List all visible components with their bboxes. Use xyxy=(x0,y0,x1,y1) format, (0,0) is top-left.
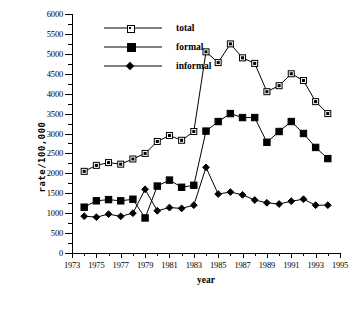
data-point xyxy=(130,196,136,202)
x-tick xyxy=(267,253,268,258)
y-tick-label: 5500 xyxy=(47,29,63,39)
x-axis-title: year xyxy=(197,275,215,285)
x-tick-minor xyxy=(84,253,85,256)
x-tick-minor xyxy=(133,253,134,256)
data-point xyxy=(217,62,219,64)
y-tick xyxy=(65,14,72,15)
data-point xyxy=(251,197,258,204)
data-point xyxy=(191,182,197,188)
data-point xyxy=(288,198,295,205)
data-point xyxy=(130,210,137,217)
y-tick xyxy=(65,193,72,194)
data-point xyxy=(203,128,209,134)
y-tick-label: 500 xyxy=(51,228,63,238)
data-point xyxy=(105,211,112,218)
data-point xyxy=(108,162,110,164)
data-point xyxy=(83,170,85,172)
x-tick-minor xyxy=(230,253,231,256)
x-tick-label: 1983 xyxy=(186,260,202,270)
data-point xyxy=(276,201,283,208)
data-point xyxy=(327,113,329,115)
data-point xyxy=(154,207,161,214)
data-point xyxy=(81,213,88,220)
y-tick-label: 3500 xyxy=(47,109,63,119)
x-tick-minor xyxy=(157,253,158,256)
y-tick-label: 5000 xyxy=(47,49,63,59)
y-tick-label: 1000 xyxy=(47,208,63,218)
data-point xyxy=(142,186,149,193)
y-tick xyxy=(65,233,72,234)
x-tick-label: 1973 xyxy=(64,260,80,270)
y-tick xyxy=(65,134,72,135)
x-tick-label: 1975 xyxy=(88,260,104,270)
data-point xyxy=(93,214,100,221)
x-tick-label: 1993 xyxy=(308,260,324,270)
data-point xyxy=(156,140,158,142)
x-tick-minor xyxy=(279,253,280,256)
legend-marker-open-square-icon xyxy=(104,22,162,34)
y-tick-label: 0 xyxy=(59,248,63,258)
data-point xyxy=(132,158,134,160)
data-point xyxy=(227,189,234,196)
x-tick-label: 1987 xyxy=(234,260,250,270)
x-tick-minor xyxy=(182,253,183,256)
y-tick xyxy=(65,253,72,254)
x-tick xyxy=(72,253,73,258)
data-point xyxy=(105,196,111,202)
data-point xyxy=(278,85,280,87)
y-tick xyxy=(65,213,72,214)
data-point xyxy=(168,134,170,136)
x-tick-minor xyxy=(303,253,304,256)
data-point xyxy=(215,118,221,124)
data-point xyxy=(239,191,246,198)
data-point xyxy=(227,110,233,116)
data-point xyxy=(215,191,222,198)
data-point xyxy=(239,114,245,120)
y-tick-label: 2000 xyxy=(47,168,63,178)
y-tick xyxy=(65,74,72,75)
y-tick-label: 4000 xyxy=(47,89,63,99)
legend-marker-filled-diamond-icon xyxy=(104,60,162,72)
data-point xyxy=(81,204,87,210)
x-tick-label: 1991 xyxy=(283,260,299,270)
y-tick xyxy=(65,34,72,35)
x-tick-label: 1989 xyxy=(259,260,275,270)
x-tick-minor xyxy=(255,253,256,256)
x-tick xyxy=(194,253,195,258)
data-point xyxy=(95,164,97,166)
data-point xyxy=(254,62,256,64)
data-point xyxy=(276,128,282,134)
y-axis-title: rate/100,000 xyxy=(37,121,47,192)
data-point xyxy=(242,57,244,59)
data-point xyxy=(181,139,183,141)
data-point xyxy=(312,202,319,209)
x-tick xyxy=(340,253,341,258)
data-point xyxy=(166,204,173,211)
data-point xyxy=(300,130,306,136)
series-line-informal xyxy=(84,167,328,217)
data-point xyxy=(178,205,185,212)
y-tick-label: 3000 xyxy=(47,129,63,139)
y-tick-label: 1500 xyxy=(47,188,63,198)
data-point xyxy=(142,215,148,221)
data-point xyxy=(324,202,331,209)
data-point xyxy=(178,184,184,190)
x-tick-label: 1977 xyxy=(113,260,129,270)
data-point xyxy=(290,73,292,75)
chart-figure: rate/100,000 050010001500200025003000350… xyxy=(0,0,356,313)
data-point xyxy=(266,91,268,93)
x-tick-label: 1979 xyxy=(137,260,153,270)
x-tick-minor xyxy=(109,253,110,256)
legend-item-informal: informal xyxy=(104,56,211,75)
legend-label-formal: formal xyxy=(176,42,203,52)
x-tick xyxy=(169,253,170,258)
data-point xyxy=(252,114,258,120)
data-point xyxy=(264,199,271,206)
y-tick xyxy=(65,153,72,154)
y-tick xyxy=(65,173,72,174)
x-tick xyxy=(96,253,97,258)
y-tick xyxy=(65,54,72,55)
x-tick xyxy=(218,253,219,258)
data-point xyxy=(117,213,124,220)
x-tick xyxy=(243,253,244,258)
